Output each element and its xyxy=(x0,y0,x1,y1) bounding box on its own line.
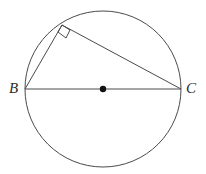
vertex-label-c: C xyxy=(186,81,196,96)
circle-diagram-canvas xyxy=(0,0,206,174)
chord-ba-segment xyxy=(25,25,62,89)
chord-ac-segment xyxy=(62,25,181,89)
vertex-label-b: B xyxy=(9,81,18,96)
center-point-dot xyxy=(100,86,106,92)
geometry-figure: B C xyxy=(0,0,206,174)
right-angle-marker-icon xyxy=(58,25,70,38)
